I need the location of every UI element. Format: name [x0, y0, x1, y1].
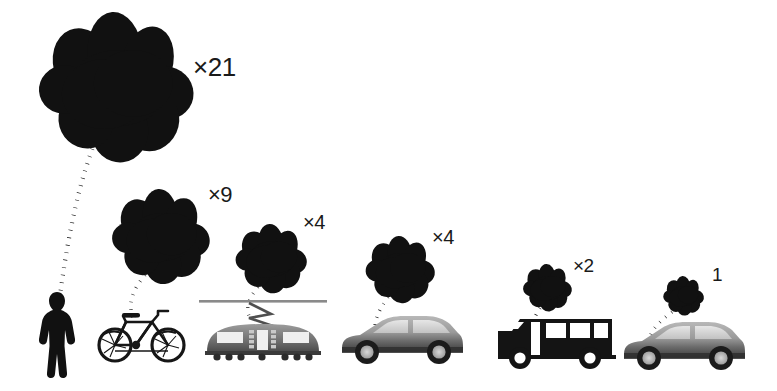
emission-cloud-icon [523, 263, 576, 312]
emission-cloud-icon [37, 10, 203, 165]
bus-icon [498, 319, 616, 369]
transport-mode-group [99, 188, 216, 361]
emission-cloud-icon [235, 223, 312, 294]
emission-multiplier-label: ×4 [432, 227, 454, 247]
emission-multiplier-label: 1 [712, 265, 722, 284]
emission-multiplier-label: ×9 [208, 184, 232, 206]
scene-illustration [0, 0, 777, 391]
transport-mode-group [342, 235, 463, 364]
emissions-infographic: ×21×9×4×4×21 [0, 0, 777, 391]
emission-cloud-icon [663, 276, 707, 317]
emission-multiplier-label: ×21 [193, 54, 236, 80]
transport-mode-group [199, 223, 327, 360]
transport-mode-group [37, 10, 203, 378]
tram-icon [199, 300, 327, 361]
emission-cloud-icon [111, 188, 216, 286]
bicycle-icon [99, 311, 184, 361]
car-icon [624, 322, 745, 370]
transport-mode-group [624, 276, 745, 370]
emission-multiplier-label: ×2 [573, 256, 594, 275]
emission-multiplier-label: ×4 [303, 212, 325, 232]
pedestrian-icon [39, 292, 75, 378]
transport-mode-group [498, 263, 616, 369]
emission-cloud-icon [365, 235, 439, 304]
car-icon [342, 316, 463, 364]
exhaust-trail [60, 142, 95, 296]
exhaust-trail [131, 275, 145, 318]
